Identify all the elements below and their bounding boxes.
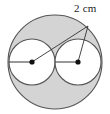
right-center-dot <box>75 59 80 64</box>
measurement-label-2cm: 2 cm <box>74 2 97 14</box>
left-center-dot <box>29 59 34 64</box>
figure-canvas <box>0 0 110 114</box>
geometry-figure: 2 cm <box>0 0 110 114</box>
